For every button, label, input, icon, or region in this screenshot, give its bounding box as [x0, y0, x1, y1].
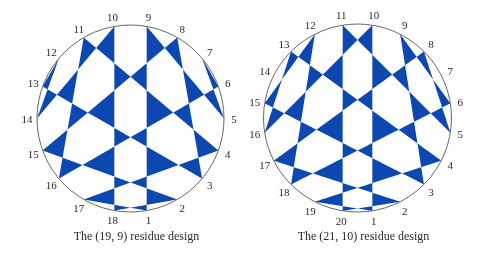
point-label-6: 6: [225, 78, 231, 89]
point-label-4: 4: [225, 148, 231, 159]
point-label-7: 7: [207, 46, 213, 57]
design-caption: The (19, 9) residue design: [74, 229, 200, 244]
point-label-12: 12: [305, 20, 316, 31]
point-label-4: 4: [447, 160, 453, 171]
point-label-1: 1: [146, 215, 152, 226]
point-label-3: 3: [428, 186, 434, 197]
point-label-13: 13: [278, 39, 289, 50]
point-label-2: 2: [402, 205, 408, 216]
point-label-19: 19: [305, 205, 316, 216]
point-label-17: 17: [73, 203, 84, 214]
point-label-1: 1: [371, 215, 377, 226]
design-caption: The (21, 10) residue design: [298, 229, 430, 244]
point-label-18: 18: [278, 186, 289, 197]
point-label-6: 6: [457, 96, 463, 107]
residue-design-21-10: 1234567891011121314151617181920 The (21,…: [240, 0, 480, 253]
point-label-3: 3: [207, 180, 213, 191]
point-label-12: 12: [46, 46, 57, 57]
residue-design-canvas: [240, 0, 480, 253]
point-label-14: 14: [259, 65, 270, 76]
point-label-20: 20: [336, 215, 347, 226]
point-label-17: 17: [259, 160, 270, 171]
point-label-10: 10: [107, 11, 118, 22]
point-label-7: 7: [447, 65, 453, 76]
point-label-18: 18: [107, 215, 118, 226]
point-label-5: 5: [231, 113, 237, 124]
point-label-16: 16: [46, 180, 57, 191]
point-label-14: 14: [22, 113, 33, 124]
point-label-9: 9: [146, 11, 152, 22]
residue-design-canvas: [0, 0, 240, 253]
point-label-10: 10: [368, 10, 379, 21]
point-label-11: 11: [73, 23, 84, 34]
point-label-9: 9: [402, 20, 408, 31]
point-label-15: 15: [249, 96, 260, 107]
point-label-15: 15: [28, 148, 39, 159]
point-label-5: 5: [457, 129, 463, 140]
point-label-16: 16: [249, 129, 260, 140]
point-label-8: 8: [180, 23, 186, 34]
point-label-8: 8: [428, 39, 434, 50]
point-label-13: 13: [28, 78, 39, 89]
point-label-11: 11: [336, 10, 347, 21]
point-label-2: 2: [180, 203, 186, 214]
residue-design-19-9: 123456789101112131415161718 The (19, 9) …: [0, 0, 240, 253]
